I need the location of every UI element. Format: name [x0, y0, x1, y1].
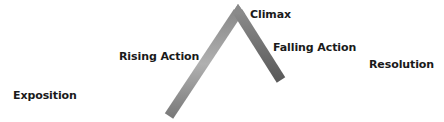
plot-structure-diagram: Exposition Rising Action Climax Falling …	[0, 0, 444, 122]
exposition-label: Exposition	[13, 89, 77, 102]
rising-action-segment	[169, 12, 238, 116]
rising-action-label: Rising Action	[119, 50, 199, 63]
resolution-label: Resolution	[369, 58, 434, 71]
climax-label: Climax	[250, 8, 291, 21]
falling-action-label: Falling Action	[273, 41, 356, 54]
